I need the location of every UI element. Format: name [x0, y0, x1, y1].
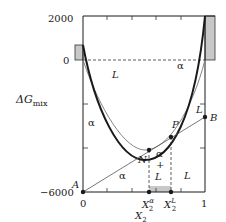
point-a	[81, 190, 85, 194]
curve-label-L: L	[111, 69, 119, 80]
point-x-alpha	[147, 190, 151, 194]
x2-L-label: XL2	[163, 197, 176, 213]
label-n: N	[137, 154, 148, 165]
liquid-curve	[83, 16, 205, 160]
right-shade-bar	[205, 16, 215, 60]
point-x-L	[169, 190, 173, 194]
x-axis-label: X2	[134, 210, 147, 222]
y-tick-minus-6000: −6000	[40, 187, 74, 198]
y-axis-label: ΔGmix	[15, 93, 48, 108]
two-phase-shade-bar	[149, 186, 171, 192]
free-energy-diagram: 2000 0 −6000 ΔGmix 0 1 Xα2 XL2 X2 A B N …	[0, 0, 226, 222]
x-tick-0: 0	[80, 198, 86, 209]
alpha-curve	[83, 60, 205, 150]
left-shade-bar	[75, 45, 83, 60]
y-tick-0: 0	[63, 55, 69, 66]
region-two-phase-alpha: α	[156, 148, 163, 159]
curve-label-L-right: L	[195, 104, 203, 115]
x2-alpha-label: Xα2	[141, 197, 154, 213]
label-a: A	[71, 179, 79, 190]
curve-label-alpha: α	[177, 60, 184, 71]
point-n	[147, 148, 151, 152]
y-tick-2000: 2000	[48, 13, 73, 24]
label-p: P	[171, 119, 179, 130]
point-p	[169, 135, 173, 139]
region-liquid: L	[183, 170, 191, 181]
curve-label-alpha-left: α	[88, 117, 95, 128]
region-alpha: α	[119, 170, 126, 181]
x-tick-1: 1	[201, 198, 207, 209]
point-b	[203, 115, 207, 119]
region-two-phase-L: L	[154, 171, 162, 182]
label-b: B	[209, 112, 217, 123]
region-two-phase-plus: +	[156, 159, 164, 170]
